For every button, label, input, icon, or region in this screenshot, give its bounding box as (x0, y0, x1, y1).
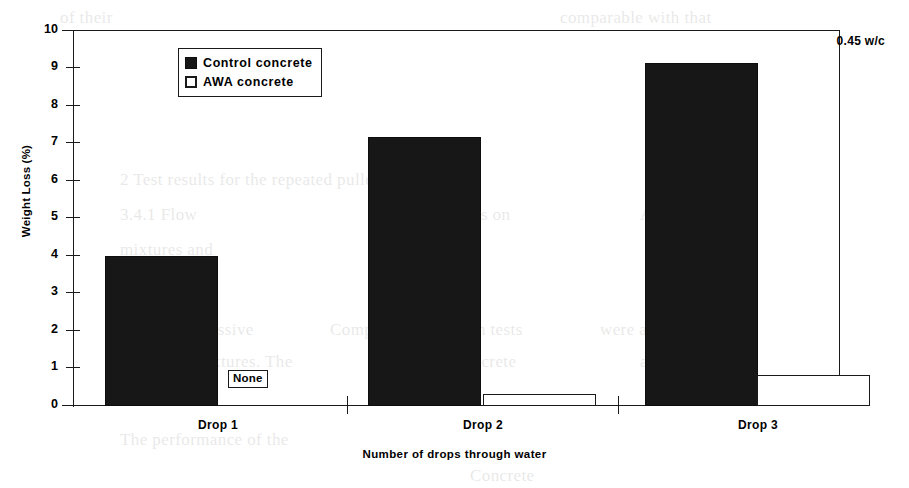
y-axis-label-2: 2 (32, 323, 58, 336)
bar-awa-drop-2 (483, 394, 596, 406)
y-tick-8 (66, 105, 80, 106)
legend-label-control-concrete: Control concrete (203, 56, 313, 70)
y-axis-label-5: 5 (32, 210, 58, 223)
legend-swatch-filled-icon (185, 57, 197, 69)
y-tick-5 (66, 217, 80, 218)
y-tick-7 (66, 142, 80, 143)
y-axis-label-3: 3 (32, 285, 58, 298)
y-tick-3 (66, 292, 80, 293)
y-axis-line (73, 30, 74, 407)
y-axis-label-9: 9 (32, 60, 58, 73)
y-tick-9 (66, 67, 80, 68)
legend-item-awa-concrete: AWA concrete (185, 72, 313, 91)
x-axis-label-drop-2: Drop 2 (413, 418, 553, 432)
bar-control-drop-2 (368, 137, 481, 406)
y-axis-label-1: 1 (32, 360, 58, 373)
y-axis-label-0: 0 (32, 398, 58, 411)
chart-legend: Control concrete AWA concrete (178, 48, 322, 97)
y-tick-10 (62, 30, 80, 31)
y-tick-6 (66, 180, 80, 181)
legend-swatch-hollow-icon (185, 76, 197, 88)
y-tick-4 (66, 255, 80, 256)
legend-label-awa-concrete: AWA concrete (203, 75, 294, 89)
x-axis-separator-1 (347, 396, 348, 414)
y-axis-label-7: 7 (32, 135, 58, 148)
y-axis-label-4: 4 (32, 248, 58, 261)
bar-awa-drop-3 (757, 375, 870, 406)
bar-chart-figure: 10 9 8 7 6 5 4 3 2 1 0 Weight Loss (%) D… (0, 0, 909, 488)
bar-control-drop-3 (645, 63, 758, 406)
y-axis-title: Weight Loss (%) (20, 121, 32, 261)
y-tick-1 (66, 367, 80, 368)
x-axis-label-drop-1: Drop 1 (148, 418, 288, 432)
y-axis-label-8: 8 (32, 98, 58, 111)
annotation-none-label: None (228, 370, 268, 388)
y-axis-label-6: 6 (32, 173, 58, 186)
y-tick-0 (66, 405, 80, 406)
legend-item-control-concrete: Control concrete (185, 53, 313, 72)
x-axis-title: Number of drops through water (0, 448, 909, 460)
annotation-water-cement-ratio: 0.45 w/c (837, 34, 885, 48)
x-axis-label-drop-3: Drop 3 (688, 418, 828, 432)
y-axis-label-10: 10 (32, 23, 58, 36)
bar-control-drop-1 (105, 256, 218, 406)
y-tick-2 (66, 330, 80, 331)
x-axis-separator-2 (618, 396, 619, 414)
